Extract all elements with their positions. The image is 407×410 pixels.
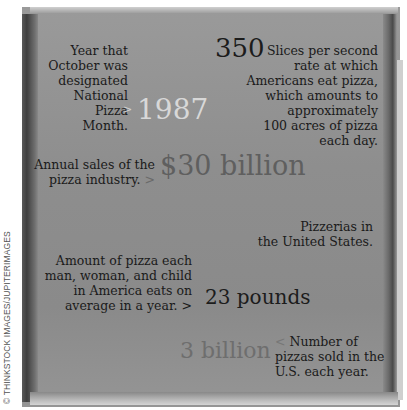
caption-text: average in a year.: [65, 298, 178, 313]
caption-line: pizzas sold in the: [275, 349, 390, 364]
caption-line: rate at which: [255, 58, 378, 73]
fact-1987-caption: Year that October was designated Nationa…: [40, 43, 128, 133]
caption-line: Slices per second: [255, 43, 378, 58]
box-right-rim: [397, 60, 403, 400]
box-bottom-wall: [30, 392, 398, 405]
caption-line: designated: [40, 73, 128, 88]
caption-line: average in a year. >: [40, 298, 192, 313]
box-left-wall: [22, 14, 38, 402]
fact-pounds-value: 23 pounds: [205, 285, 310, 309]
caption-line: each day.: [255, 133, 378, 148]
caption-line: Annual sales of the: [30, 157, 155, 172]
fact-sales-value: $30 billion: [160, 150, 306, 181]
caption-line: U.S. each year.: [275, 364, 390, 379]
caption-line: Pizzerias in: [240, 219, 373, 234]
fact-pizzas-caption: < Number of pizzas sold in the U.S. each…: [275, 334, 390, 379]
caption-text: pizza industry.: [49, 172, 141, 187]
caption-text: Number of: [289, 334, 357, 349]
caption-line: the United States.: [240, 234, 373, 249]
arrow-right-icon: >: [182, 298, 192, 313]
caption-line: pizza industry. >: [30, 172, 155, 187]
caption-line: October was: [40, 58, 128, 73]
caption-line: Amount of pizza each: [40, 253, 192, 268]
caption-line: man, woman, and child: [40, 268, 192, 283]
fact-sales-caption: Annual sales of the pizza industry. >: [30, 157, 155, 187]
box-top-edge: [30, 7, 398, 13]
arrow-right-icon: >: [123, 103, 132, 116]
caption-line: < Number of: [275, 334, 390, 349]
fact-pounds-caption: Amount of pizza each man, woman, and chi…: [40, 253, 192, 313]
caption-line: Year that: [40, 43, 128, 58]
caption-line: approximately: [255, 103, 378, 118]
arrow-left-icon: <: [275, 334, 285, 349]
caption-line: National Pizza: [40, 88, 128, 118]
caption-line: in America eats on: [40, 283, 192, 298]
caption-line: Month.: [40, 118, 128, 133]
fact-pizzas-value: 3 billion: [180, 338, 271, 363]
caption-line: 100 acres of pizza: [255, 118, 378, 133]
fact-350-caption: Slices per second rate at which American…: [255, 43, 378, 148]
fact-pizzerias-caption: Pizzerias in the United States.: [240, 219, 373, 249]
caption-line: Americans eat pizza,: [215, 73, 378, 88]
fact-1987-value: 1987: [137, 93, 208, 126]
caption-line: which amounts to: [255, 88, 378, 103]
arrow-right-icon: >: [145, 172, 155, 187]
photo-credit: © THINKSTOCK IMAGES/JUPITERIMAGES: [2, 231, 12, 404]
